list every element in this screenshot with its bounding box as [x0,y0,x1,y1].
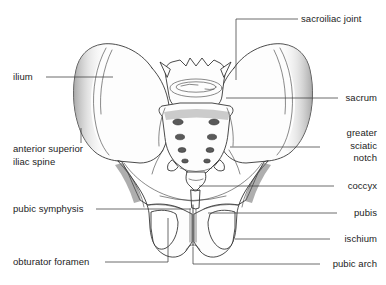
label-pubic-symphysis: pubic symphysis [13,203,83,216]
pelvis-diagram-figure: ilium anterior superior iliac spine pubi… [0,0,386,285]
label-greater-sciatic-notch-line3: notch [347,152,377,165]
label-ischium: ischium [344,233,377,246]
left-ilium-bone [74,44,171,163]
label-greater-sciatic-notch: greater sciatic notch [347,127,377,165]
right-ilium-bone [216,44,313,163]
label-greater-sciatic-notch-line1: greater [347,127,377,140]
label-anterior-superior-iliac-spine-line1: anterior superior [13,143,83,156]
label-pubic-arch: pubic arch [333,258,377,271]
label-anterior-superior-iliac-spine-line2: iliac spine [13,156,83,169]
label-pubis: pubis [354,207,377,220]
lumbar-vertebra-l5 [160,58,231,110]
sacrum-bone [159,103,233,176]
coccyx-bone [186,172,206,209]
label-sacroiliac-joint: sacroiliac joint [301,13,361,26]
label-sacrum: sacrum [346,92,377,105]
label-greater-sciatic-notch-line2: sciatic [347,140,377,153]
label-obturator-foramen: obturator foramen [13,256,89,269]
label-anterior-superior-iliac-spine: anterior superior iliac spine [13,143,83,168]
label-coccyx: coccyx [348,180,377,193]
label-ilium: ilium [13,71,33,84]
